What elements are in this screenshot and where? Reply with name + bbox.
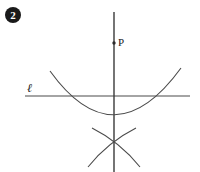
main-arc — [50, 68, 181, 115]
geometry-figure: 2 P ℓ — [0, 0, 200, 172]
construction-arc-left — [88, 128, 136, 167]
point-p-label: P — [118, 36, 124, 48]
point-p-dot — [112, 41, 115, 44]
figure-number-badge: 2 — [5, 7, 21, 23]
line-l-label: ℓ — [27, 81, 32, 96]
construction-arc-right — [92, 128, 140, 167]
